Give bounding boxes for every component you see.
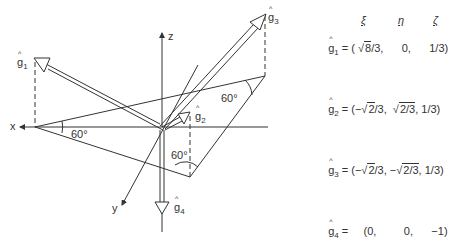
equation-g1: g1 = ( √8/3, 0, 1/3) bbox=[322, 30, 448, 57]
equation-g4: g4 = (0, 0, −1) bbox=[322, 213, 448, 240]
x-axis-label: x bbox=[10, 121, 16, 132]
g4-label: g4 bbox=[174, 202, 185, 216]
angle-label-x: 60° bbox=[71, 129, 88, 140]
vector-g1 bbox=[34, 58, 163, 130]
angle-label-bottom: 60° bbox=[171, 150, 188, 161]
g1-label: g1 bbox=[17, 57, 28, 71]
column-eta: η bbox=[398, 14, 404, 26]
vector-g3 bbox=[160, 14, 266, 129]
equation-g3: g3 = (−√2/3, −√2/3, 1/3) bbox=[322, 152, 444, 179]
column-zeta: ζ bbox=[433, 14, 438, 26]
equation-g2: g2 = (−√2/3, √2/3, 1/3) bbox=[322, 91, 440, 118]
y-axis-label: y bbox=[112, 203, 118, 214]
g3-label: g3 bbox=[268, 12, 279, 26]
g2-label: g2 bbox=[195, 111, 206, 125]
angle-label-right: 60° bbox=[221, 93, 238, 104]
vector-g4 bbox=[155, 130, 169, 214]
column-xi: ξ bbox=[361, 14, 366, 26]
z-axis-label: z bbox=[168, 31, 174, 42]
